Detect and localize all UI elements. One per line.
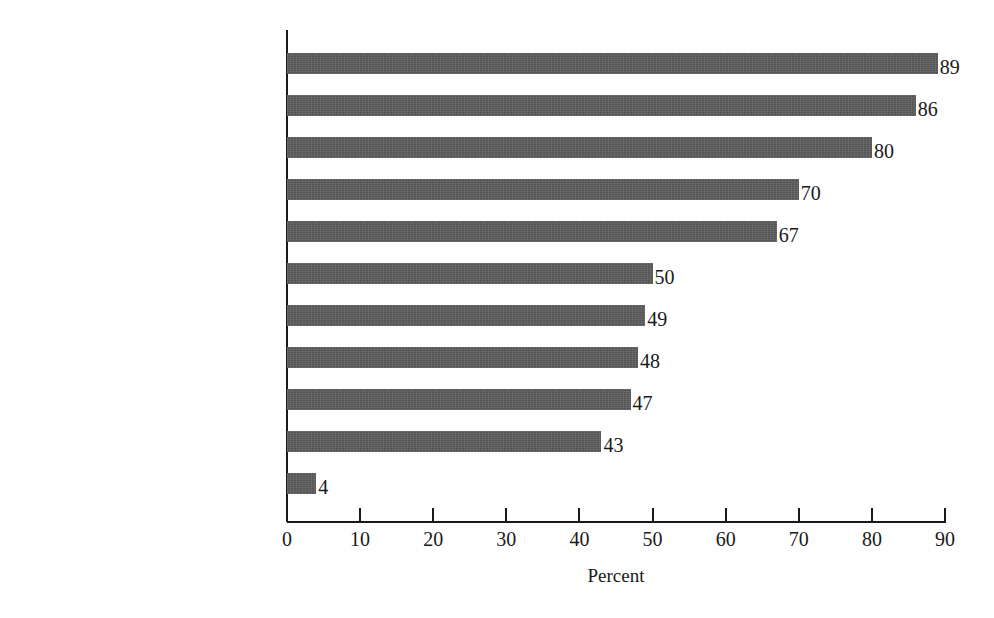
x-axis-title-text: Percent [588,565,645,587]
bar-row: Assertiveness43 [287,420,945,462]
bar-row: Communication skills89 [287,42,945,84]
bar-row: Ability to apply theories49 [287,294,945,336]
bar[interactable] [287,263,653,284]
x-tick [359,508,361,522]
x-tick-label: 60 [716,527,736,551]
bar[interactable] [287,221,777,242]
x-tick [871,508,873,522]
x-tick-label: 30 [496,527,516,551]
bar-value-label: 89 [940,57,960,77]
bar-value-label: 86 [918,99,938,119]
x-tick [505,508,507,522]
bar-row: Ability to capitalize on change48 [287,336,945,378]
bar[interactable] [287,389,631,410]
bar-row: Good intuition50 [287,252,945,294]
bar[interactable] [287,95,916,116]
bar-row: Cunning4 [287,462,945,504]
x-tick-label: 50 [643,527,663,551]
bar-value-label: 4 [318,477,328,497]
bar[interactable] [287,179,799,200]
bar-value-label: 48 [640,351,660,371]
bar-value-label: 49 [647,309,667,329]
bar-value-label: 43 [603,435,623,455]
bar-row: Ability to delegate67 [287,210,945,252]
x-tick-label: 90 [935,527,955,551]
x-axis-title: Percent [0,565,994,587]
x-tick-label: 10 [350,527,370,551]
bar-row: A good team player47 [287,378,945,420]
plot-area: Communication skills89Initiative86Abilit… [287,30,945,522]
bar[interactable] [287,473,316,494]
bar-value-label: 67 [779,225,799,245]
bar-row: Initiative86 [287,84,945,126]
bar[interactable] [287,347,638,368]
x-tick [432,508,434,522]
bar-row: Ability to organize70 [287,168,945,210]
x-tick [798,508,800,522]
x-tick-label: 80 [862,527,882,551]
x-tick [286,508,288,522]
bar[interactable] [287,137,872,158]
bar[interactable] [287,431,601,452]
bar-value-label: 80 [874,141,894,161]
bar[interactable] [287,305,645,326]
x-tick-label: 20 [423,527,443,551]
x-tick [944,508,946,522]
bar-row: Ability to motivate others80 [287,126,945,168]
x-tick-label: 0 [282,527,292,551]
x-tick-label: 70 [789,527,809,551]
x-tick [725,508,727,522]
bar-value-label: 47 [633,393,653,413]
bar-value-label: 70 [801,183,821,203]
bar-chart: Communication skills89Initiative86Abilit… [0,0,994,618]
x-tick [578,508,580,522]
x-tick [652,508,654,522]
bar-value-label: 50 [655,267,675,287]
x-tick-label: 40 [569,527,589,551]
bar[interactable] [287,53,938,74]
